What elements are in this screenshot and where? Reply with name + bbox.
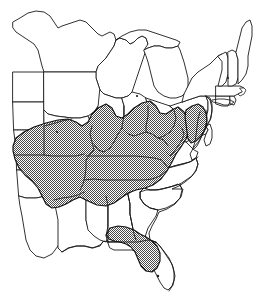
distribution-range-map-figure: Eastern United States — [0, 0, 253, 295]
scan-mark-iowa — [56, 131, 58, 133]
state-maine — [236, 20, 252, 84]
scan-mark-florida-tip — [157, 275, 159, 277]
state-michigan-lower — [144, 46, 188, 98]
state-north-dakota — [13, 72, 44, 102]
scan-mark-cape-cod — [227, 77, 229, 79]
scan-mark-ohio — [136, 95, 138, 97]
map-canvas — [0, 0, 253, 295]
